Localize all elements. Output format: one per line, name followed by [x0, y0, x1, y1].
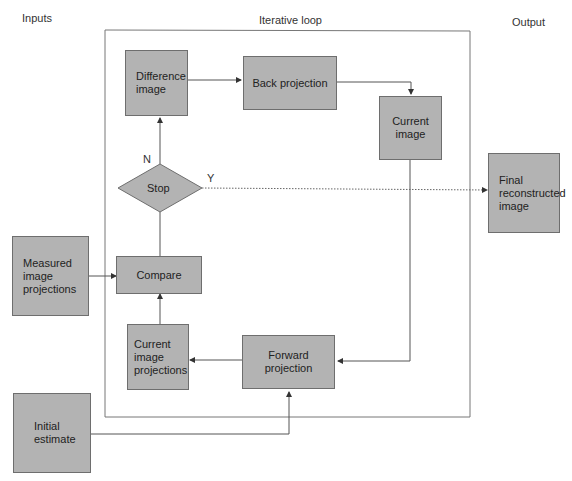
current-image-node: Current image — [379, 96, 442, 160]
forward-projection-label: Forward projection — [243, 349, 334, 375]
current-image-label: Current image — [392, 115, 429, 141]
current-projections-label: Current image projections — [134, 338, 187, 377]
final-image-label: Final reconstructed image — [499, 174, 566, 213]
current-projections-node: Current image projections — [127, 324, 189, 390]
yes-edge-label: Y — [207, 172, 214, 184]
compare-node: Compare — [116, 256, 202, 294]
difference-image-label: Difference image — [136, 70, 186, 96]
stop-decision: Stop — [147, 182, 170, 194]
no-edge-label: N — [143, 153, 151, 165]
measured-projections-label: Measured image projections — [23, 257, 76, 296]
initial-estimate-node: Initial estimate — [13, 393, 91, 473]
final-image-node: Final reconstructed image — [488, 153, 560, 233]
initial-estimate-label: Initial estimate — [34, 420, 76, 446]
difference-image-node: Difference image — [125, 50, 188, 116]
back-projection-node: Back projection — [243, 56, 337, 110]
compare-label: Compare — [136, 269, 181, 282]
forward-projection-node: Forward projection — [242, 335, 335, 389]
measured-projections-node: Measured image projections — [12, 236, 89, 316]
back-projection-label: Back projection — [252, 77, 327, 90]
